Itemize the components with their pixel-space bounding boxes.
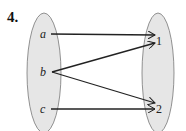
mapping-diagram: a b c 1 2 bbox=[0, 0, 186, 131]
arrow-b-to-1 bbox=[52, 43, 155, 72]
arrow-a-to-1 bbox=[51, 34, 155, 35]
domain-element-b: b bbox=[40, 65, 46, 79]
domain-element-a: a bbox=[40, 27, 46, 41]
codomain-element-1: 1 bbox=[156, 34, 162, 48]
arrow-b-to-2 bbox=[52, 72, 155, 103]
codomain-element-2: 2 bbox=[156, 102, 162, 116]
domain-element-c: c bbox=[40, 102, 46, 116]
